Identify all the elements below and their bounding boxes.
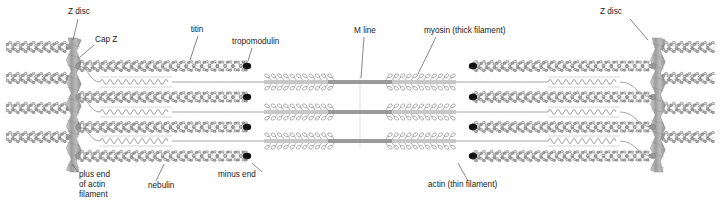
label-myosin: myosin (thick filament) — [424, 26, 506, 35]
actin-monomer — [688, 81, 691, 84]
actin-monomer — [127, 130, 130, 133]
actin-monomer — [711, 81, 714, 84]
actin-monomer — [506, 69, 509, 72]
actin-monomer — [166, 130, 169, 133]
label-cap-z: Cap Z — [95, 35, 117, 44]
actin-monomer — [24, 50, 27, 52]
actin-monomer — [665, 111, 668, 113]
actin-monomer — [47, 72, 50, 75]
actin-monomer — [680, 41, 683, 43]
actin-monomer — [143, 91, 146, 94]
actin-monomer — [112, 69, 115, 72]
actin-monomer — [81, 69, 84, 71]
actin-monomer — [568, 60, 571, 63]
actin-monomer — [665, 72, 668, 74]
actin-monomer — [545, 150, 548, 153]
actin-monomer — [135, 150, 138, 153]
actin-monomer — [552, 150, 555, 153]
actin-monomer — [32, 50, 35, 53]
actin-monomer — [552, 69, 555, 72]
actin-monomer — [703, 140, 706, 143]
actin-monomer — [513, 130, 516, 133]
actin-monomer — [166, 150, 169, 153]
actin-monomer — [529, 60, 532, 63]
actin-monomer — [47, 111, 50, 114]
sarcomere-diagram: Z discCap ZtitintropomodulinM linemyosin… — [0, 0, 721, 208]
cap-z-right — [651, 63, 656, 69]
actin-monomer — [560, 60, 563, 63]
actin-monomer — [47, 140, 50, 143]
actin-monomer — [490, 69, 493, 71]
actin-monomer — [568, 121, 571, 124]
actin-monomer — [112, 150, 115, 153]
actin-monomer — [174, 91, 177, 94]
actin-monomer — [127, 91, 130, 94]
actin-monomer — [9, 81, 12, 83]
actin-monomer — [537, 159, 540, 162]
actin-monomer — [672, 72, 675, 74]
label-m-line: M line — [354, 26, 376, 35]
actin-monomer — [703, 102, 706, 105]
actin-monomer — [688, 41, 691, 44]
actin-monomer — [55, 102, 58, 105]
actin-monomer — [529, 121, 532, 124]
actin-monomer — [96, 150, 99, 152]
actin-monomer — [166, 91, 169, 94]
actin-monomer — [182, 150, 185, 153]
actin-monomer — [545, 69, 548, 72]
actin-monomer — [688, 131, 691, 134]
actin-monomer — [665, 41, 668, 43]
actin-monomer — [127, 121, 130, 124]
actin-monomer — [24, 131, 27, 133]
actin-monomer — [151, 91, 154, 94]
actin-monomer — [696, 81, 699, 84]
actin-monomer — [63, 140, 66, 143]
label-nebulin: nebulin — [148, 181, 175, 190]
actin-monomer — [166, 69, 169, 72]
actin-monomer — [174, 60, 177, 63]
actin-monomer — [529, 100, 532, 103]
actin-monomer — [9, 131, 12, 133]
actin-monomer — [104, 100, 107, 103]
actin-monomer — [151, 100, 154, 103]
actin-monomer — [182, 121, 185, 124]
cap-z-left — [76, 153, 81, 159]
tropomodulin-cap — [469, 153, 477, 160]
actin-monomer — [158, 100, 161, 103]
actin-monomer — [127, 60, 130, 63]
actin-monomer — [490, 121, 493, 123]
actin-monomer — [498, 69, 501, 72]
actin-monomer — [24, 72, 27, 74]
actin-monomer — [166, 60, 169, 63]
actin-monomer — [552, 130, 555, 133]
actin-monomer — [537, 130, 540, 133]
actin-monomer — [482, 159, 485, 161]
actin-monomer — [127, 159, 130, 162]
actin-monomer — [545, 130, 548, 133]
actin-monomer — [560, 130, 563, 133]
actin-monomer — [537, 100, 540, 103]
actin-monomer — [506, 159, 509, 162]
actin-monomer — [104, 150, 107, 153]
actin-monomer — [545, 60, 548, 63]
actin-monomer — [482, 91, 485, 93]
actin-monomer — [104, 159, 107, 162]
actin-monomer — [88, 130, 91, 132]
actin-monomer — [475, 100, 478, 102]
actin-monomer — [665, 102, 668, 104]
actin-monomer — [672, 50, 675, 52]
actin-monomer — [703, 72, 706, 75]
actin-monomer — [63, 72, 66, 75]
actin-monomer — [174, 121, 177, 124]
actin-monomer — [560, 100, 563, 103]
actin-monomer — [16, 72, 19, 74]
actin-monomer — [88, 121, 91, 123]
actin-monomer — [158, 150, 161, 153]
actin-monomer — [475, 91, 478, 93]
actin-monomer — [576, 69, 579, 72]
actin-monomer — [104, 121, 107, 124]
actin-monomer — [696, 102, 699, 105]
actin-monomer — [552, 100, 555, 103]
actin-monomer — [498, 150, 501, 153]
actin-monomer — [672, 102, 675, 104]
